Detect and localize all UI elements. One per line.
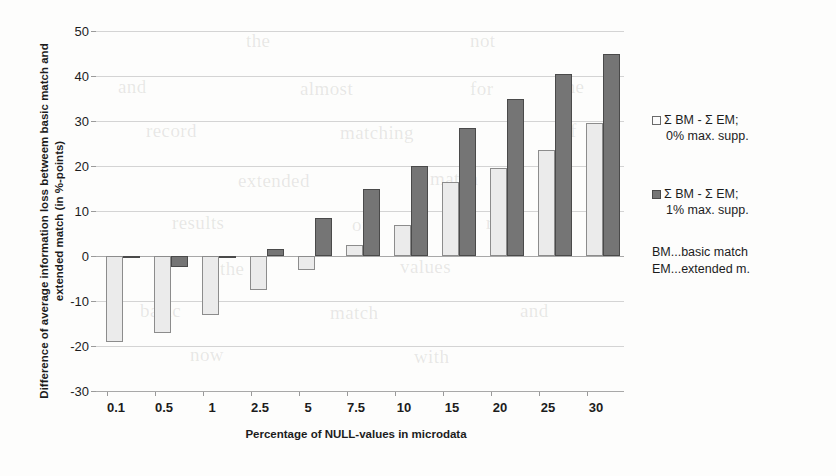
x-tick-label: 25 xyxy=(524,400,572,415)
x-tick-label: 0.1 xyxy=(92,400,140,415)
bar-group: 1 xyxy=(192,31,240,391)
legend-notes: BM...basic match EM...extended m. xyxy=(652,244,832,278)
legend-label-line1: Σ BM - Σ EM; xyxy=(664,187,738,201)
bar-series-0 xyxy=(106,256,123,342)
y-tick-label: 30 xyxy=(75,114,89,129)
bar-group: 0.5 xyxy=(144,31,192,391)
x-tick-label: 30 xyxy=(572,400,620,415)
bar-series-1 xyxy=(411,166,428,256)
bar-group: 25 xyxy=(528,31,576,391)
x-tick-label: 5 xyxy=(284,400,332,415)
x-tick-label: 2.5 xyxy=(236,400,284,415)
bar-series-1 xyxy=(603,54,620,257)
x-tick-label: 10 xyxy=(380,400,428,415)
x-tick-label: 7.5 xyxy=(332,400,380,415)
bar-series-1 xyxy=(459,128,476,256)
legend-entry: Σ BM - Σ EM; 0% max. supp. xyxy=(652,112,832,144)
bar-series-0 xyxy=(538,150,555,256)
y-tick-label: 0 xyxy=(82,249,89,264)
y-tick-label: 10 xyxy=(75,204,89,219)
bar-series-1 xyxy=(363,189,380,257)
legend-label-line2: 1% max. supp. xyxy=(652,202,832,218)
y-axis-title: Difference of average information loss b… xyxy=(37,41,67,401)
bar-series-0 xyxy=(490,168,507,256)
bar-series-1 xyxy=(219,256,236,258)
x-axis-title: Percentage of NULL-values in microdata xyxy=(96,428,616,440)
bar-group: 7.5 xyxy=(336,31,384,391)
bar-group: 0.1 xyxy=(96,31,144,391)
bar-series-0 xyxy=(154,256,171,333)
legend-note: EM...extended m. xyxy=(652,261,832,278)
bar-group: 20 xyxy=(480,31,528,391)
bar-series-1 xyxy=(507,99,524,257)
bar-series-0 xyxy=(442,182,459,256)
y-tick-label: 50 xyxy=(75,24,89,39)
bar-group: 2.5 xyxy=(240,31,288,391)
bar-series-1 xyxy=(267,249,284,256)
x-tick-label: 15 xyxy=(428,400,476,415)
x-tick-label: 1 xyxy=(188,400,236,415)
chart-figure: Difference of average information loss b… xyxy=(0,0,836,476)
bar-series-1 xyxy=(315,218,332,256)
bar-series-0 xyxy=(298,256,315,270)
x-axis-line xyxy=(96,391,624,392)
legend-label-line1: Σ BM - Σ EM; xyxy=(664,113,738,127)
bar-series-1 xyxy=(171,256,188,267)
chart-legend: Σ BM - Σ EM; 0% max. supp. Σ BM - Σ EM; … xyxy=(652,112,832,278)
y-tick-label: 20 xyxy=(75,159,89,174)
bar-group: 10 xyxy=(384,31,432,391)
bar-series-1 xyxy=(123,256,140,258)
legend-swatch-light-icon xyxy=(652,116,661,125)
bar-series-0 xyxy=(586,123,603,256)
legend-label-line2: 0% max. supp. xyxy=(652,128,832,144)
y-tick-label: 40 xyxy=(75,69,89,84)
bar-series-0 xyxy=(202,256,219,315)
x-tick-label: 20 xyxy=(476,400,524,415)
bar-groups: 0.10.512.557.51015202530 xyxy=(96,31,624,391)
bar-series-0 xyxy=(250,256,267,290)
bar-series-0 xyxy=(394,225,411,257)
bar-series-0 xyxy=(346,245,363,256)
y-tick-label: -30 xyxy=(70,384,89,399)
bar-group: 5 xyxy=(288,31,336,391)
y-tick-label: -10 xyxy=(70,294,89,309)
bar-series-1 xyxy=(555,74,572,256)
bar-group: 30 xyxy=(576,31,624,391)
bar-group: 15 xyxy=(432,31,480,391)
legend-note: BM...basic match xyxy=(652,244,832,261)
y-tick-label: -20 xyxy=(70,339,89,354)
legend-swatch-dark-icon xyxy=(652,190,661,199)
x-tick-label: 0.5 xyxy=(140,400,188,415)
legend-entry: Σ BM - Σ EM; 1% max. supp. xyxy=(652,186,832,218)
plot-area: 50403020100-10-20-30 0.10.512.557.510152… xyxy=(96,31,624,391)
